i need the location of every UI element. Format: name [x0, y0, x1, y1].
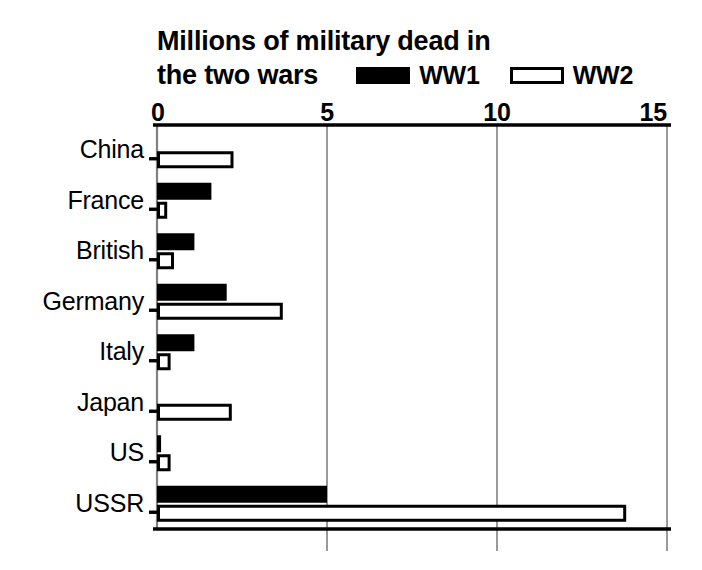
- category-label-italy: Italy: [99, 337, 144, 366]
- category-label-china: China: [80, 135, 144, 164]
- category-label-japan: Japan: [77, 388, 144, 417]
- category-label-ussr: USSR: [75, 489, 144, 518]
- chart-container: Millions of military dead in the two war…: [0, 0, 702, 570]
- category-label-germany: Germany: [43, 287, 144, 316]
- category-label-france: France: [67, 186, 144, 215]
- category-label-british: British: [76, 236, 144, 265]
- category-label-us: US: [110, 438, 144, 467]
- y-axis-category-labels: ChinaFranceBritishGermanyItalyJapanUSUSS…: [0, 0, 702, 570]
